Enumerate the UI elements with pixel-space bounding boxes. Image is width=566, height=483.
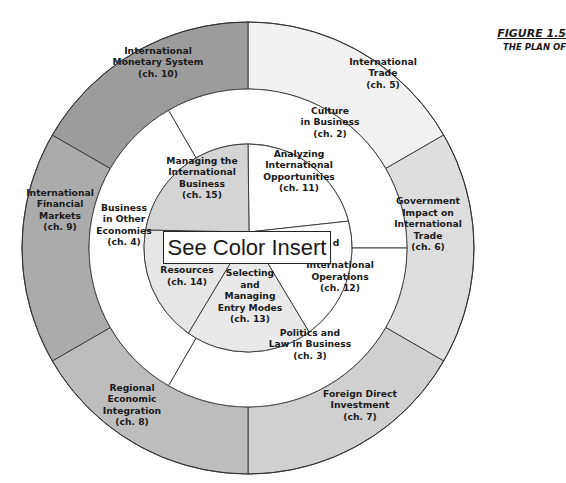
inner-label-line: (ch. 12) [320,282,360,293]
inner-label-line: Operations [311,271,369,282]
inner-label-line: Analyzing [274,148,325,159]
outer-label-line: International [349,56,417,67]
outer-label-line: Investment [331,399,390,410]
inner-label-line: Managing [225,290,276,301]
inner-label-ch14: Resources(ch. 14) [160,264,214,287]
inner-label-line: Managing the [166,155,237,166]
middle-label-line: Law in Business [269,338,352,349]
figure-subtitle: THE PLAN OF [503,42,566,52]
outer-label-line: (ch. 9) [43,221,76,232]
inner-label-line: (ch. 11) [279,182,319,193]
middle-label-line: (ch. 4) [107,236,140,247]
outer-label-line: Financial [37,198,84,209]
middle-label-line: Business [101,202,147,213]
inner-label-line: (ch. 14) [167,276,207,287]
inner-label-line: International [168,166,236,177]
middle-label-line: in Other [103,213,146,224]
outer-label-line: Government [396,195,460,206]
figure-number: FIGURE 1.5 [497,27,566,40]
inner-label-line: d [333,237,340,248]
middle-label-line: Culture [311,105,349,116]
inner-label-line: Entry Modes [218,302,283,313]
inner-label-line: Resources [160,264,214,275]
outer-label-line: Trade [369,67,398,78]
outer-label-line: Monetary System [113,56,204,67]
outer-label-line: (ch. 7) [343,411,376,422]
outer-label-line: (ch. 5) [366,79,399,90]
outer-label-line: Trade [414,230,443,241]
middle-label-line: (ch. 2) [313,128,346,139]
outer-label-line: Markets [39,210,81,221]
inner-label-line: (ch. 15) [182,189,222,200]
outer-label-line: International [394,218,462,229]
outer-label-line: Economic [107,393,156,404]
outer-label-line: (ch. 10) [138,68,178,79]
outer-label-line: International [124,45,192,56]
outer-label-line: Regional [109,382,154,393]
inner-label-line: Opportunities [263,171,335,182]
inner-label-line: (ch. 13) [230,313,270,324]
middle-label-line: in Business [301,116,360,127]
middle-label-line: Politics and [280,327,340,338]
outer-label-line: Integration [103,405,161,416]
middle-label-line: Economies [96,225,152,236]
see-color-insert-box: See Color Insert [163,231,331,264]
outer-label-line: Impact on [402,207,454,218]
outer-label-line: (ch. 8) [115,416,148,427]
inner-label-line: International [265,159,333,170]
outer-label-line: International [26,187,94,198]
inner-label-line: and [240,279,259,290]
middle-label-line: (ch. 3) [293,350,326,361]
outer-label-line: Foreign Direct [323,388,397,399]
outer-label-line: (ch. 6) [411,241,444,252]
inner-label-line: Business [179,178,225,189]
inner-label-line: Selecting [226,267,274,278]
